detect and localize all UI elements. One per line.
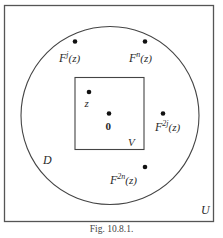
label-z: z bbox=[84, 97, 90, 109]
label-origin: 0 bbox=[106, 120, 112, 132]
label-fj: Fj(z) bbox=[58, 50, 81, 65]
point-z bbox=[87, 90, 92, 95]
label-f2n: F2n(z) bbox=[109, 172, 137, 187]
label-u: U bbox=[201, 203, 211, 217]
point-f2j bbox=[161, 111, 166, 116]
figure: Fj(z) Fn(z) z 0 V F2j(z) F2n(z) D U Fig.… bbox=[0, 0, 223, 238]
point-origin bbox=[107, 111, 112, 116]
label-f2j: F2j(z) bbox=[154, 119, 181, 134]
label-fn: Fn(z) bbox=[128, 50, 152, 65]
figure-caption: Fig. 10.8.1. bbox=[0, 224, 223, 234]
point-fn bbox=[143, 39, 148, 44]
label-v: V bbox=[128, 136, 136, 148]
point-f2n bbox=[143, 165, 148, 170]
diagram-canvas: Fj(z) Fn(z) z 0 V F2j(z) F2n(z) D U bbox=[0, 0, 223, 238]
label-d: D bbox=[42, 153, 52, 167]
point-fj bbox=[73, 39, 78, 44]
